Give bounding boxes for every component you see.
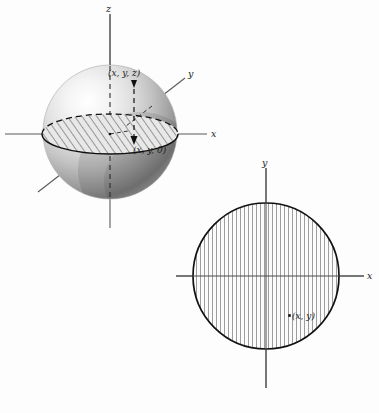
sphere-center-dot [109, 133, 112, 136]
disk-point-label: (x, y) [292, 311, 315, 321]
disk-panel: y x (x, y) [176, 157, 373, 388]
z-axis-label: z [105, 3, 112, 14]
point-xy0-label: (x, y, 0) [133, 145, 167, 155]
math-figure: z x y (x, y, z) (x, y, 0) [0, 0, 379, 413]
x-axis-label: x [211, 128, 217, 139]
sphere-panel: z x y (x, y, z) (x, y, 0) [5, 3, 217, 228]
disk-x-axis-label: x [367, 270, 373, 281]
disk-point-marker [288, 314, 291, 317]
figure-page: z x y (x, y, z) (x, y, 0) [0, 0, 379, 413]
disk-hatch [190, 200, 345, 355]
point-xyz-label: (x, y, z) [108, 68, 141, 78]
disk-y-axis-label: y [261, 157, 268, 168]
y-axis-label: y [187, 68, 194, 79]
